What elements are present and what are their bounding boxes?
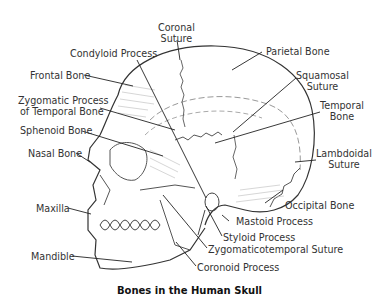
label-condyloid-process: Condyloid Process bbox=[70, 48, 157, 59]
label-parietal-bone: Parietal Bone bbox=[266, 46, 330, 57]
label-sphenoid-bone: Sphenoid Bone bbox=[20, 125, 92, 136]
label-line: Suture bbox=[296, 81, 349, 92]
label-line: Coronal bbox=[158, 22, 195, 33]
label-zygomaticotemporal-suture: Zygomaticotemporal Suture bbox=[208, 244, 343, 255]
label-line: Temporal bbox=[320, 100, 364, 111]
label-zygomatic-process: Zygomatic Process of Temporal Bone bbox=[18, 95, 109, 117]
label-coronoid-process: Coronoid Process bbox=[197, 262, 279, 273]
label-coronal-suture: Coronal Suture bbox=[158, 22, 195, 44]
label-occipital-bone: Occipital Bone bbox=[285, 200, 354, 211]
label-mandible: Mandible bbox=[31, 251, 75, 262]
label-temporal-bone: Temporal Bone bbox=[320, 100, 364, 122]
label-lambdoidal-suture: Lambdoidal Suture bbox=[316, 148, 372, 170]
label-frontal-bone: Frontal Bone bbox=[30, 70, 90, 81]
label-line: Squamosal bbox=[296, 70, 349, 81]
label-line: Suture bbox=[316, 159, 372, 170]
label-line: Bone bbox=[320, 111, 364, 122]
label-line: Zygomatic Process bbox=[18, 95, 109, 106]
label-squamosal-suture: Squamosal Suture bbox=[296, 70, 349, 92]
label-line: Suture bbox=[158, 33, 195, 44]
label-mastoid-process: Mastoid Process bbox=[236, 216, 313, 227]
label-line: Lambdoidal bbox=[316, 148, 372, 159]
label-nasal-bone: Nasal Bone bbox=[28, 148, 82, 159]
label-line: of Temporal Bone bbox=[18, 106, 109, 117]
label-maxilla: Maxilla bbox=[36, 203, 70, 214]
label-styloid-process: Styloid Process bbox=[223, 232, 295, 243]
diagram-title: Bones in the Human Skull bbox=[0, 285, 379, 296]
